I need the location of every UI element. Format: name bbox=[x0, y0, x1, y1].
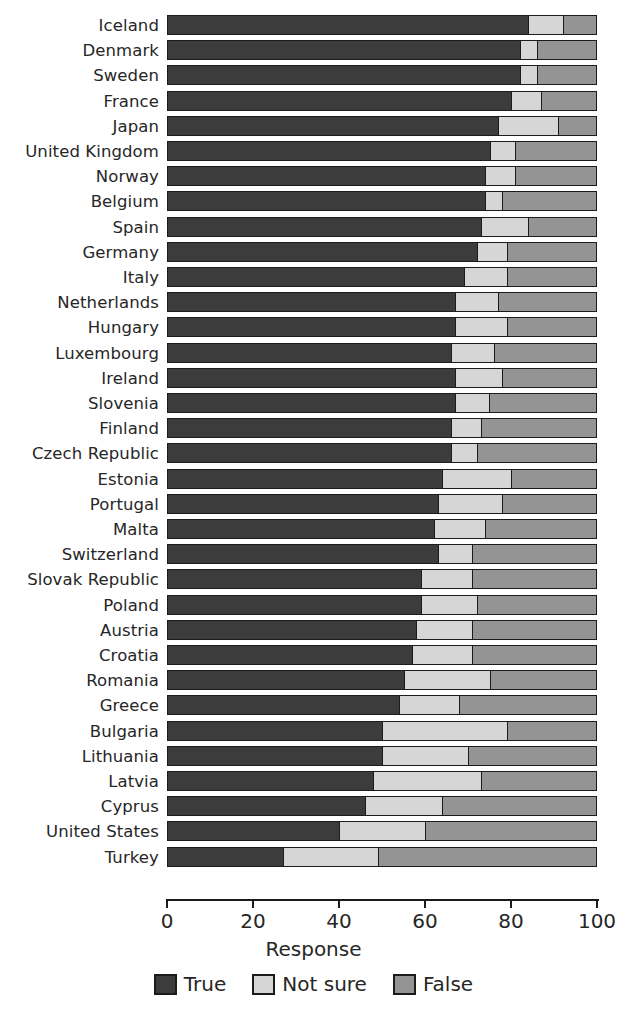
swatch-icon bbox=[393, 974, 416, 995]
legend-label: Not sure bbox=[282, 972, 367, 996]
category-label: Hungary bbox=[88, 318, 159, 338]
bar-segment-true bbox=[167, 393, 455, 413]
legend-item[interactable]: False bbox=[393, 972, 473, 996]
bar-segment-false bbox=[498, 292, 597, 312]
bar-segment-false bbox=[563, 15, 597, 35]
bar-segment-false bbox=[459, 695, 597, 715]
bar-segment-true bbox=[167, 217, 481, 237]
category-label: Italy bbox=[123, 268, 159, 288]
category-label: Ireland bbox=[101, 369, 159, 389]
category-label: Latvia bbox=[108, 772, 159, 792]
category-label: Switzerland bbox=[62, 545, 159, 565]
bar-segment-not-sure bbox=[438, 544, 472, 564]
category-label: France bbox=[104, 92, 159, 112]
bar-row bbox=[167, 796, 597, 816]
bar-row bbox=[167, 544, 597, 564]
category-label: Austria bbox=[100, 621, 159, 641]
bar-segment-true bbox=[167, 796, 365, 816]
x-tick-label: 100 bbox=[578, 909, 616, 933]
category-label: Slovak Republic bbox=[27, 570, 159, 590]
category-label: Cyprus bbox=[101, 797, 159, 817]
chart-legend: TrueNot sureFalse bbox=[0, 972, 627, 996]
bar-segment-true bbox=[167, 116, 498, 136]
bar-segment-not-sure bbox=[528, 15, 562, 35]
bar-segment-not-sure bbox=[382, 746, 468, 766]
bar-segment-false bbox=[502, 494, 597, 514]
bar-segment-true bbox=[167, 292, 455, 312]
bar-segment-false bbox=[425, 821, 597, 841]
bar-row bbox=[167, 368, 597, 388]
bar-row bbox=[167, 141, 597, 161]
bar-segment-not-sure bbox=[421, 595, 477, 615]
bar-segment-true bbox=[167, 242, 477, 262]
x-tick bbox=[166, 899, 168, 908]
bar-segment-false bbox=[472, 645, 597, 665]
x-tick-label: 0 bbox=[161, 909, 174, 933]
bar-segment-not-sure bbox=[421, 569, 473, 589]
bar-segment-false bbox=[507, 267, 597, 287]
x-axis-title: Response bbox=[0, 937, 627, 961]
bar-row bbox=[167, 721, 597, 741]
bar-segment-false bbox=[481, 418, 597, 438]
bar-segment-false bbox=[489, 393, 597, 413]
bar-segment-false bbox=[515, 166, 597, 186]
bar-row bbox=[167, 847, 597, 867]
bar-segment-not-sure bbox=[455, 292, 498, 312]
bar-segment-not-sure bbox=[451, 343, 494, 363]
category-label: Finland bbox=[99, 419, 159, 439]
x-tick bbox=[510, 899, 512, 908]
bar-segment-true bbox=[167, 544, 438, 564]
category-label: Germany bbox=[82, 243, 159, 263]
bar-segment-false bbox=[558, 116, 597, 136]
bar-segment-not-sure bbox=[511, 91, 541, 111]
bar-row bbox=[167, 40, 597, 60]
category-label: Poland bbox=[103, 596, 159, 616]
bar-row bbox=[167, 15, 597, 35]
bar-segment-false bbox=[468, 746, 597, 766]
x-tick-label: 60 bbox=[412, 909, 437, 933]
bar-segment-true bbox=[167, 494, 438, 514]
bar-segment-true bbox=[167, 343, 451, 363]
bar-segment-true bbox=[167, 443, 451, 463]
bar-segment-true bbox=[167, 15, 528, 35]
bar-segment-true bbox=[167, 65, 520, 85]
bar-segment-not-sure bbox=[451, 418, 481, 438]
bar-segment-false bbox=[528, 217, 597, 237]
bar-segment-true bbox=[167, 645, 412, 665]
bar-segment-not-sure bbox=[339, 821, 425, 841]
bar-segment-true bbox=[167, 317, 455, 337]
bar-row bbox=[167, 771, 597, 791]
bar-segment-false bbox=[472, 544, 597, 564]
category-label: Bulgaria bbox=[90, 722, 159, 742]
bar-segment-not-sure bbox=[373, 771, 481, 791]
bar-row bbox=[167, 746, 597, 766]
legend-label: False bbox=[423, 972, 473, 996]
bar-segment-not-sure bbox=[399, 695, 459, 715]
bar-segment-false bbox=[472, 569, 597, 589]
bar-segment-true bbox=[167, 746, 382, 766]
bar-segment-true bbox=[167, 670, 404, 690]
x-tick bbox=[338, 899, 340, 908]
category-label: Czech Republic bbox=[32, 444, 159, 464]
legend-item[interactable]: Not sure bbox=[252, 972, 367, 996]
x-tick bbox=[424, 899, 426, 908]
bar-segment-not-sure bbox=[382, 721, 507, 741]
bar-segment-false bbox=[507, 721, 597, 741]
category-label: Spain bbox=[112, 218, 159, 238]
bar-row bbox=[167, 65, 597, 85]
bar-segment-false bbox=[515, 141, 597, 161]
bar-segment-true bbox=[167, 191, 485, 211]
bar-row bbox=[167, 595, 597, 615]
bar-segment-false bbox=[477, 443, 597, 463]
bar-row bbox=[167, 317, 597, 337]
category-label: Denmark bbox=[82, 41, 159, 61]
bar-segment-false bbox=[537, 65, 597, 85]
category-label: Sweden bbox=[93, 66, 159, 86]
bar-row bbox=[167, 166, 597, 186]
bar-row bbox=[167, 469, 597, 489]
bar-segment-not-sure bbox=[438, 494, 503, 514]
bar-segment-false bbox=[477, 595, 597, 615]
bar-segment-false bbox=[502, 368, 597, 388]
legend-item[interactable]: True bbox=[154, 972, 226, 996]
bar-segment-not-sure bbox=[455, 393, 489, 413]
